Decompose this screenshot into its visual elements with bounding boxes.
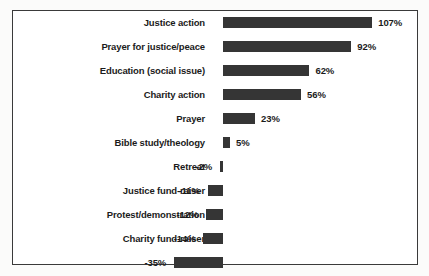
bar-row: Charity action56% (13, 83, 417, 107)
bar (223, 137, 230, 148)
plot-area-frame: Justice action107%Prayer for justice/pea… (12, 10, 418, 265)
bar (206, 209, 223, 220)
bar-row: Prayer23% (13, 107, 417, 131)
category-label: Justice action (144, 11, 205, 35)
category-label: Bible study/theology (115, 131, 205, 155)
bar (220, 161, 223, 172)
value-label: -2% (195, 155, 212, 179)
bar-row: Charity fund-raiser-14% (13, 227, 417, 251)
bar-row: Social-35% (13, 251, 417, 275)
bar-row: Justice action107% (13, 11, 417, 35)
bar-row: Bible study/theology5% (13, 131, 417, 155)
bar (174, 257, 223, 268)
value-label: 56% (307, 83, 326, 107)
bar (223, 41, 351, 52)
value-label: 92% (357, 35, 376, 59)
bar (223, 113, 255, 124)
bar-row: Justice fund-raiser-11% (13, 179, 417, 203)
value-label: 5% (236, 131, 250, 155)
value-label: -14% (174, 227, 196, 251)
bar-row: Prayer for justice/peace92% (13, 35, 417, 59)
category-label: Prayer for justice/peace (101, 35, 205, 59)
bar (208, 185, 223, 196)
chart-figure: Justice action107%Prayer for justice/pea… (0, 0, 429, 276)
bar-row: Education (social issue)62% (13, 59, 417, 83)
value-label: -11% (178, 179, 199, 203)
bar-row: Retreat-2% (13, 155, 417, 179)
category-label: Education (social issue) (100, 59, 205, 83)
category-label: Charity action (144, 83, 205, 107)
bar (223, 65, 309, 76)
value-label: 62% (315, 59, 334, 83)
category-label: Prayer (176, 107, 205, 131)
bar-rows-container: Justice action107%Prayer for justice/pea… (13, 11, 417, 264)
value-label: 23% (261, 107, 280, 131)
value-label: -12% (176, 203, 198, 227)
value-label: 107% (378, 11, 402, 35)
value-label: -35% (144, 251, 166, 275)
bar (223, 17, 372, 28)
bar-row: Protest/demonstration-12% (13, 203, 417, 227)
bar (223, 89, 301, 100)
bar (203, 233, 223, 244)
